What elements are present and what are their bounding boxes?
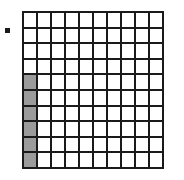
grid-cell-empty[interactable]	[122, 13, 136, 29]
grid-cell-empty[interactable]	[108, 153, 122, 169]
grid-cell-empty[interactable]	[122, 122, 136, 138]
grid-cell-empty[interactable]	[136, 107, 150, 123]
grid-cell-empty[interactable]	[80, 29, 94, 45]
grid-cell-empty[interactable]	[66, 44, 80, 60]
grid-cell-empty[interactable]	[94, 138, 108, 154]
grid-cell-empty[interactable]	[150, 29, 164, 45]
grid-cell-empty[interactable]	[94, 75, 108, 91]
grid-cell-empty[interactable]	[122, 138, 136, 154]
grid-cell-shaded[interactable]	[24, 91, 38, 107]
grid-cell-empty[interactable]	[122, 75, 136, 91]
grid-cell-empty[interactable]	[136, 60, 150, 76]
grid-cell-empty[interactable]	[52, 60, 66, 76]
grid-cell-empty[interactable]	[52, 122, 66, 138]
grid-cell-empty[interactable]	[80, 60, 94, 76]
grid-cell-empty[interactable]	[136, 75, 150, 91]
grid-cell-empty[interactable]	[136, 138, 150, 154]
grid-cell-empty[interactable]	[38, 122, 52, 138]
grid-cell-empty[interactable]	[52, 13, 66, 29]
grid-cell-empty[interactable]	[66, 107, 80, 123]
grid-cell-empty[interactable]	[108, 91, 122, 107]
grid-cell-empty[interactable]	[150, 122, 164, 138]
grid-cell-empty[interactable]	[80, 44, 94, 60]
grid-cell-shaded[interactable]	[24, 138, 38, 154]
grid-cell-empty[interactable]	[94, 122, 108, 138]
grid-cell-empty[interactable]	[108, 107, 122, 123]
grid-cell-shaded[interactable]	[24, 153, 38, 169]
grid-cell-empty[interactable]	[136, 153, 150, 169]
grid-cell-empty[interactable]	[94, 29, 108, 45]
grid-cell-empty[interactable]	[94, 91, 108, 107]
grid-cell-empty[interactable]	[122, 60, 136, 76]
grid-cell-empty[interactable]	[150, 107, 164, 123]
grid-cell-empty[interactable]	[52, 138, 66, 154]
grid-cell-empty[interactable]	[24, 44, 38, 60]
grid-cell-empty[interactable]	[136, 29, 150, 45]
grid-cell-empty[interactable]	[80, 138, 94, 154]
grid-cell-empty[interactable]	[66, 153, 80, 169]
grid-cell-empty[interactable]	[38, 13, 52, 29]
grid-cell-empty[interactable]	[94, 13, 108, 29]
grid-cell-empty[interactable]	[38, 75, 52, 91]
grid-cell-empty[interactable]	[38, 91, 52, 107]
grid-cell-empty[interactable]	[150, 13, 164, 29]
grid-cell-empty[interactable]	[136, 122, 150, 138]
grid-cell-empty[interactable]	[80, 75, 94, 91]
grid-cell-empty[interactable]	[66, 29, 80, 45]
grid-cell-empty[interactable]	[52, 107, 66, 123]
grid-cell-empty[interactable]	[122, 153, 136, 169]
grid-cell-empty[interactable]	[52, 75, 66, 91]
grid-cell-empty[interactable]	[52, 153, 66, 169]
grid-cell-empty[interactable]	[80, 122, 94, 138]
grid-cell-empty[interactable]	[150, 91, 164, 107]
grid-cell-shaded[interactable]	[24, 75, 38, 91]
grid-cell-empty[interactable]	[38, 107, 52, 123]
grid-cell-empty[interactable]	[108, 122, 122, 138]
grid-cell-empty[interactable]	[150, 44, 164, 60]
grid-cell-empty[interactable]	[38, 29, 52, 45]
grid-cell-empty[interactable]	[38, 44, 52, 60]
grid-cell-empty[interactable]	[80, 13, 94, 29]
grid-cell-empty[interactable]	[52, 91, 66, 107]
grid-cell-empty[interactable]	[150, 60, 164, 76]
grid-cell-empty[interactable]	[94, 107, 108, 123]
grid-cell-empty[interactable]	[80, 91, 94, 107]
grid-cell-empty[interactable]	[94, 60, 108, 76]
grid-cell-empty[interactable]	[122, 29, 136, 45]
grid-cell-empty[interactable]	[108, 75, 122, 91]
grid-cell-empty[interactable]	[94, 153, 108, 169]
grid-cell-empty[interactable]	[38, 153, 52, 169]
grid-cell-empty[interactable]	[80, 107, 94, 123]
grid-cell-empty[interactable]	[66, 75, 80, 91]
grid-cell-empty[interactable]	[108, 44, 122, 60]
grid-cell-empty[interactable]	[122, 107, 136, 123]
grid-cell-empty[interactable]	[136, 91, 150, 107]
grid-cell-empty[interactable]	[108, 29, 122, 45]
grid-cell-empty[interactable]	[38, 138, 52, 154]
grid-cell-empty[interactable]	[136, 13, 150, 29]
grid-cell-empty[interactable]	[66, 138, 80, 154]
grid-cell-empty[interactable]	[150, 75, 164, 91]
grid-cell-shaded[interactable]	[24, 107, 38, 123]
grid-cell-empty[interactable]	[108, 138, 122, 154]
grid-cell-empty[interactable]	[108, 60, 122, 76]
grid-cell-empty[interactable]	[24, 13, 38, 29]
grid-cell-empty[interactable]	[66, 60, 80, 76]
grid-cell-empty[interactable]	[150, 138, 164, 154]
grid-cell-empty[interactable]	[66, 91, 80, 107]
grid-cell-empty[interactable]	[122, 91, 136, 107]
grid-cell-empty[interactable]	[136, 44, 150, 60]
grid-cell-empty[interactable]	[122, 44, 136, 60]
grid-cell-empty[interactable]	[52, 29, 66, 45]
grid-cell-empty[interactable]	[150, 153, 164, 169]
grid-cell-empty[interactable]	[94, 44, 108, 60]
grid-cell-empty[interactable]	[108, 13, 122, 29]
grid-cell-empty[interactable]	[52, 44, 66, 60]
grid-cell-empty[interactable]	[80, 153, 94, 169]
grid-cell-empty[interactable]	[66, 13, 80, 29]
grid-cell-empty[interactable]	[38, 60, 52, 76]
grid-cell-empty[interactable]	[24, 60, 38, 76]
grid-cell-empty[interactable]	[66, 122, 80, 138]
grid-cell-empty[interactable]	[24, 29, 38, 45]
grid-cell-shaded[interactable]	[24, 122, 38, 138]
